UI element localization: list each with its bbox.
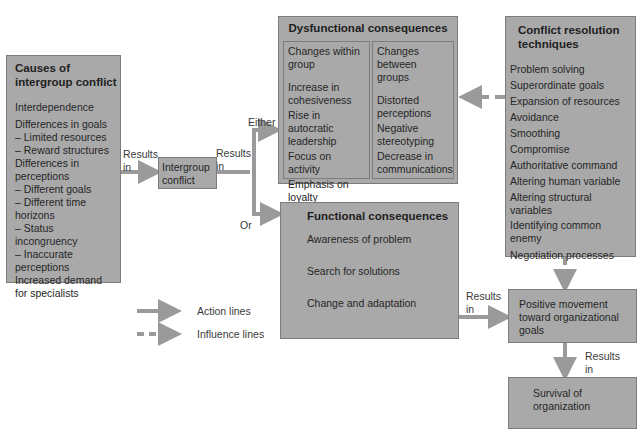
causes-box: Causes of intergroup conflict Interdepen… bbox=[6, 55, 121, 283]
resolution-item: Avoidance bbox=[510, 109, 635, 125]
cause-item: – Inaccurate perceptions bbox=[15, 248, 95, 274]
within-item: Rise in autocratic leadership bbox=[288, 109, 365, 148]
cause-item: Differences in perceptions bbox=[15, 157, 95, 183]
cause-item: – Different time horizons bbox=[15, 196, 95, 222]
functional-item: Awareness of problem bbox=[307, 233, 458, 246]
cause-item: – Reward structures bbox=[15, 144, 120, 157]
resolution-list: Problem solving Superordinate goals Expa… bbox=[510, 61, 635, 263]
resolution-item: Expansion of resources bbox=[510, 93, 635, 109]
cause-item: – Limited resources bbox=[15, 131, 120, 144]
either-label: Either bbox=[248, 116, 275, 129]
within-item: Increase in cohesiveness bbox=[288, 81, 365, 107]
or-label: Or bbox=[240, 219, 252, 232]
resolution-item: Smoothing bbox=[510, 125, 635, 141]
functional-list: Awareness of problem Search for solution… bbox=[307, 233, 458, 310]
resolution-box: Conflict resolution techniques Problem s… bbox=[505, 16, 636, 257]
functional-item: Change and adaptation bbox=[307, 297, 458, 310]
within-heading: Changes within group bbox=[288, 45, 365, 71]
dysfunctional-title: Dysfunctional consequences bbox=[279, 21, 457, 35]
cause-item: Differences in goals bbox=[15, 118, 120, 131]
within-group-panel: Changes within group Increase in cohesiv… bbox=[283, 41, 370, 179]
within-item: Emphasis on loyalty bbox=[288, 178, 365, 204]
results-in-label-1: Results in bbox=[123, 148, 159, 174]
resolution-item: Compromise bbox=[510, 141, 635, 157]
causes-title: Causes of intergroup conflict bbox=[15, 61, 120, 89]
legend-action-label: Action lines bbox=[197, 305, 251, 318]
resolution-title: Conflict resolution techniques bbox=[510, 23, 628, 51]
survival-label: Survival of organization bbox=[533, 387, 590, 412]
between-heading: Changes between groups bbox=[377, 45, 449, 84]
cause-item: – Different goals bbox=[15, 183, 120, 196]
functional-item: Search for solutions bbox=[307, 265, 458, 278]
resolution-item: Identifying common enemy bbox=[510, 219, 620, 245]
between-groups-panel: Changes between groups Distorted percept… bbox=[372, 41, 454, 179]
results-in-label-2: Results in bbox=[216, 147, 252, 173]
results-in-label-4: Results in bbox=[585, 350, 621, 376]
legend-influence-label: Influence lines bbox=[197, 328, 264, 341]
between-item: Distorted perceptions bbox=[377, 94, 449, 120]
cause-item: Interdependence bbox=[15, 101, 120, 114]
resolution-item: Altering structural variables bbox=[510, 191, 610, 217]
intergroup-conflict-box: Intergroup conflict bbox=[158, 157, 217, 189]
cause-item: – Status incongruency bbox=[15, 222, 95, 248]
positive-movement-box: Positive movement toward organizational … bbox=[508, 289, 637, 343]
results-in-label-3: Results in bbox=[466, 290, 502, 316]
resolution-item: Superordinate goals bbox=[510, 77, 635, 93]
causes-list: Interdependence Differences in goals – L… bbox=[15, 101, 120, 300]
positive-movement-label: Positive movement toward organizational … bbox=[519, 298, 619, 336]
cause-item: Increased demand for specialists bbox=[15, 274, 110, 300]
resolution-item: Authoritative command bbox=[510, 157, 635, 173]
resolution-item: Altering human variable bbox=[510, 173, 635, 189]
functional-box: Functional consequences Awareness of pro… bbox=[280, 202, 459, 339]
intergroup-conflict-label: Intergroup conflict bbox=[162, 161, 210, 186]
survival-box: Survival of organization bbox=[508, 377, 637, 429]
between-item: Decrease in communications bbox=[377, 150, 449, 176]
functional-title: Functional consequences bbox=[307, 209, 458, 223]
resolution-item: Negotiation processes bbox=[510, 247, 635, 263]
within-item: Focus on activity bbox=[288, 150, 365, 176]
dysfunctional-box: Dysfunctional consequences Changes withi… bbox=[278, 16, 458, 184]
between-item: Negative stereotyping bbox=[377, 122, 449, 148]
resolution-item: Problem solving bbox=[510, 61, 635, 77]
